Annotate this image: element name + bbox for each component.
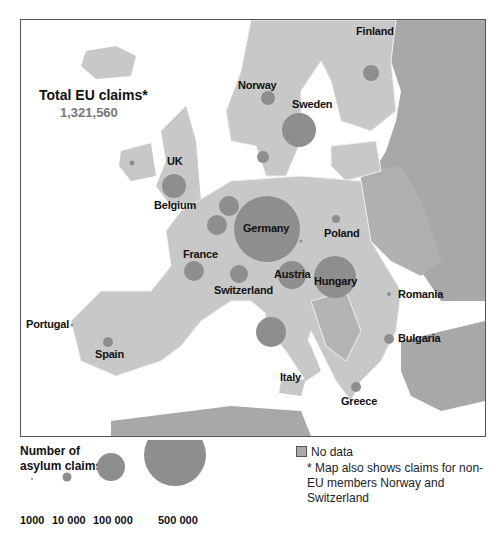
label-finland: Finland <box>356 25 394 37</box>
label-switzerland: Switzerland <box>214 284 273 296</box>
label-sweden: Sweden <box>292 98 332 110</box>
label-uk: UK <box>167 155 183 167</box>
footnote: * Map also shows claims for non-EU membe… <box>307 461 487 506</box>
legend-size-500000: 500 000 <box>158 514 198 526</box>
label-italy: Italy <box>280 371 301 383</box>
no-data-legend: No data <box>296 445 353 459</box>
label-greece: Greece <box>341 395 377 407</box>
legend-size-10000: 10 000 <box>52 514 86 526</box>
label-hungary: Hungary <box>314 275 357 287</box>
label-poland: Poland <box>324 227 359 239</box>
label-bulgaria: Bulgaria <box>398 332 440 344</box>
label-austria: Austria <box>274 268 311 280</box>
no-data-swatch <box>296 446 307 457</box>
label-germany: Germany <box>243 222 289 234</box>
total-title: Total EU claims* <box>39 87 148 103</box>
legend-bubbles <box>0 440 260 515</box>
legend-size-100000: 100 000 <box>93 514 133 526</box>
label-france: France <box>183 248 218 260</box>
label-spain: Spain <box>95 348 124 360</box>
map-frame: Total EU claims* 1,321,560 Finland Norwa… <box>20 19 486 437</box>
label-norway: Norway <box>238 79 277 91</box>
label-belgium: Belgium <box>154 199 196 211</box>
total-value: 1,321,560 <box>60 105 118 120</box>
legend-size-1000: 1000 <box>20 514 44 526</box>
label-portugal: Portugal <box>26 318 69 330</box>
label-romania: Romania <box>398 288 443 300</box>
